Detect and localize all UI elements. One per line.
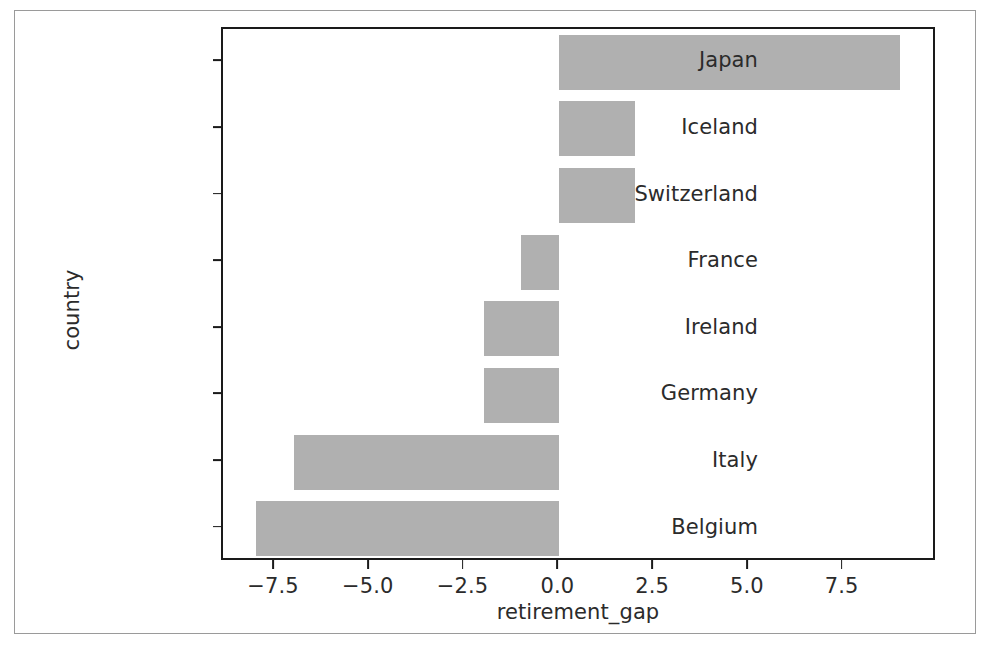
x-tick-mark — [651, 560, 653, 569]
x-tick-label: −5.0 — [342, 574, 393, 598]
x-tick-mark — [367, 560, 369, 569]
y-axis-label: country — [60, 269, 84, 350]
plot-area — [221, 27, 935, 560]
bar — [484, 301, 560, 356]
y-tick-label-ireland: Ireland — [685, 315, 758, 339]
y-tick-mark — [213, 526, 221, 528]
x-tick-mark — [841, 560, 843, 569]
x-tick-mark — [556, 560, 558, 569]
x-tick-label: 2.5 — [635, 574, 669, 598]
y-tick-label-switzerland: Switzerland — [634, 182, 758, 206]
y-tick-label-france: France — [688, 248, 758, 272]
y-tick-mark — [213, 326, 221, 328]
bar — [256, 501, 559, 556]
x-tick-label: −2.5 — [437, 574, 488, 598]
y-tick-label-germany: Germany — [661, 381, 758, 405]
x-tick-mark — [272, 560, 274, 569]
x-tick-label: 7.5 — [825, 574, 859, 598]
y-tick-mark — [213, 59, 221, 61]
y-tick-mark — [213, 459, 221, 461]
bar — [484, 368, 560, 423]
bar — [559, 101, 635, 156]
y-tick-label-belgium: Belgium — [671, 515, 758, 539]
page-canvas: JapanIcelandSwitzerlandFranceIrelandGerm… — [0, 0, 990, 645]
bar — [294, 435, 559, 490]
x-axis-label: retirement_gap — [497, 600, 660, 624]
y-tick-label-japan: Japan — [699, 48, 758, 72]
bar — [559, 168, 635, 223]
x-tick-mark — [746, 560, 748, 569]
y-tick-label-iceland: Iceland — [681, 115, 758, 139]
y-tick-mark — [213, 126, 221, 128]
x-tick-mark — [462, 560, 464, 569]
bar — [521, 235, 559, 290]
bar-chart-figure: JapanIcelandSwitzerlandFranceIrelandGerm… — [0, 0, 990, 645]
y-tick-mark — [213, 193, 221, 195]
x-tick-label: 5.0 — [730, 574, 764, 598]
x-tick-label: −7.5 — [247, 574, 298, 598]
y-tick-mark — [213, 259, 221, 261]
x-tick-label: 0.0 — [540, 574, 574, 598]
y-tick-label-italy: Italy — [712, 448, 758, 472]
y-tick-mark — [213, 393, 221, 395]
